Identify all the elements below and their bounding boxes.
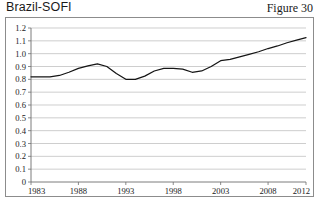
x-tick-label: 1993 [117, 186, 134, 196]
x-tick-label: 1983 [28, 186, 45, 196]
y-tick-label: 0.5 [15, 113, 26, 123]
y-tick-label: 0.4 [15, 126, 26, 136]
x-tick-label: 1988 [70, 186, 87, 196]
y-tick-label: 0.1 [15, 164, 26, 174]
chart-plot-area: 00.10.20.30.40.50.60.70.80.91.01.11.2198… [0, 0, 320, 203]
y-tick-label: 1.2 [15, 23, 26, 33]
y-tick-label: 0.6 [15, 100, 26, 110]
line-chart: 00.10.20.30.40.50.60.70.80.91.01.11.2198… [0, 0, 320, 203]
x-tick-label: 2012 [293, 186, 310, 196]
y-tick-label: 0.7 [15, 87, 26, 97]
y-tick-label: 0.8 [15, 74, 26, 84]
y-tick-label: 0.9 [15, 62, 26, 72]
x-tick-label: 1998 [165, 186, 182, 196]
x-tick-label: 2008 [259, 186, 276, 196]
figure-container: Brazil-SOFI Figure 30 00.10.20.30.40.50.… [0, 0, 320, 203]
y-tick-label: 1.1 [15, 36, 26, 46]
y-tick-label: 0.3 [15, 139, 26, 149]
y-tick-label: 0 [22, 177, 26, 187]
x-tick-label: 2003 [212, 186, 229, 196]
y-tick-label: 1.0 [15, 49, 26, 59]
y-tick-label: 0.2 [15, 151, 26, 161]
data-series-line [31, 38, 306, 80]
